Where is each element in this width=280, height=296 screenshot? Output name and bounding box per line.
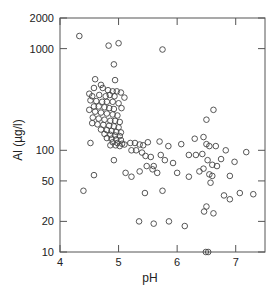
data-point bbox=[111, 62, 117, 68]
data-point bbox=[243, 149, 249, 155]
x-tick-label: 7 bbox=[233, 256, 239, 268]
data-point bbox=[157, 139, 163, 145]
data-point bbox=[77, 33, 83, 39]
data-point bbox=[160, 188, 166, 194]
data-point bbox=[122, 95, 128, 101]
data-point bbox=[232, 159, 238, 165]
data-point bbox=[112, 77, 118, 83]
data-point bbox=[218, 156, 224, 162]
data-point bbox=[178, 141, 184, 147]
data-point bbox=[144, 163, 150, 169]
data-point bbox=[111, 157, 117, 163]
data-point bbox=[192, 136, 198, 142]
data-point bbox=[116, 40, 122, 46]
y-tick-label: 1000 bbox=[30, 43, 54, 55]
data-point bbox=[96, 116, 102, 122]
data-point bbox=[88, 140, 94, 146]
data-point bbox=[151, 163, 157, 169]
data-point bbox=[110, 99, 116, 105]
data-point bbox=[154, 170, 160, 176]
data-point bbox=[92, 76, 98, 82]
data-point bbox=[227, 173, 233, 179]
data-point bbox=[89, 120, 95, 126]
data-point bbox=[193, 152, 199, 158]
data-point bbox=[205, 157, 211, 163]
data-point bbox=[162, 157, 168, 163]
y-tick-label: 100 bbox=[36, 144, 54, 156]
x-axis: 4567 bbox=[57, 18, 239, 268]
data-point bbox=[98, 110, 104, 116]
y-tick-label: 10 bbox=[42, 246, 54, 258]
data-point bbox=[139, 150, 145, 156]
data-point bbox=[142, 190, 148, 196]
x-axis-label: pH bbox=[142, 271, 157, 285]
y-tick-label: 2000 bbox=[30, 12, 54, 24]
y-axis-label: Al (µg/l) bbox=[11, 119, 25, 161]
data-point bbox=[104, 111, 110, 117]
x-tick-label: 4 bbox=[57, 256, 63, 268]
data-point bbox=[143, 153, 149, 159]
data-point bbox=[86, 107, 92, 113]
data-point bbox=[90, 115, 96, 121]
data-point bbox=[201, 134, 207, 140]
data-point bbox=[186, 152, 192, 158]
data-point bbox=[94, 98, 100, 104]
data-point bbox=[119, 105, 125, 111]
data-point bbox=[204, 117, 210, 123]
data-point bbox=[221, 193, 227, 199]
data-point bbox=[145, 139, 151, 145]
data-point bbox=[160, 47, 166, 53]
data-point bbox=[136, 219, 142, 225]
scatter-chart: 10205010010002000 4567 pH Al (µg/l) bbox=[0, 0, 280, 296]
data-point bbox=[137, 169, 143, 175]
data-point bbox=[227, 196, 233, 202]
data-point bbox=[129, 174, 135, 180]
data-point bbox=[158, 152, 164, 158]
data-point bbox=[123, 170, 129, 176]
data-point bbox=[92, 109, 98, 115]
data-point bbox=[91, 172, 97, 178]
data-point bbox=[200, 151, 206, 157]
data-point bbox=[106, 43, 112, 49]
data-point bbox=[166, 143, 172, 149]
plot-frame bbox=[60, 18, 265, 252]
x-tick-label: 6 bbox=[174, 256, 180, 268]
data-point bbox=[223, 148, 229, 154]
data-point bbox=[201, 209, 207, 215]
data-point bbox=[166, 219, 172, 225]
data-point bbox=[170, 160, 176, 166]
data-point bbox=[148, 154, 154, 160]
y-tick-label: 50 bbox=[42, 175, 54, 187]
data-points bbox=[77, 33, 257, 255]
data-point bbox=[211, 107, 217, 113]
data-point bbox=[208, 180, 214, 186]
data-point bbox=[182, 223, 188, 229]
data-point bbox=[95, 122, 101, 128]
data-point bbox=[81, 188, 87, 194]
data-point bbox=[96, 92, 102, 98]
data-point bbox=[201, 166, 207, 172]
y-tick-label: 20 bbox=[42, 215, 54, 227]
data-point bbox=[250, 191, 256, 197]
data-point bbox=[102, 117, 108, 123]
x-tick-label: 5 bbox=[116, 256, 122, 268]
data-point bbox=[151, 221, 157, 227]
data-point bbox=[91, 85, 97, 91]
data-point bbox=[186, 174, 192, 180]
data-point bbox=[197, 169, 203, 175]
data-point bbox=[213, 143, 219, 149]
data-point bbox=[237, 190, 243, 196]
data-point bbox=[211, 211, 217, 217]
data-point bbox=[174, 170, 180, 176]
y-axis: 10205010010002000 bbox=[30, 12, 265, 258]
